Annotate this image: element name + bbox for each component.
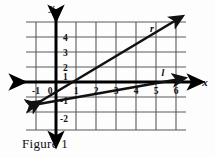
y-tick-label-1: 1 <box>63 72 68 82</box>
x-tick-label--1: -1 <box>32 86 40 96</box>
y-tick-label--1: -1 <box>60 96 68 106</box>
y-tick-label-4: 4 <box>63 33 68 43</box>
x-tick-label-5: 5 <box>154 86 159 96</box>
figure-container: -1 0 1 2 3 4 5 6 4 3 2 1 -1 -2 y x r l F… <box>0 0 215 158</box>
y-axis-label: y <box>48 1 55 13</box>
line-label-r: r <box>150 23 154 34</box>
x-axis-label: x <box>201 76 208 88</box>
x-tick-label-6: 6 <box>174 86 179 96</box>
line-label-l: l <box>162 67 165 78</box>
figure-caption: Figure 1 <box>22 136 68 152</box>
x-tick-label-2: 2 <box>94 86 99 96</box>
x-tick-label-4: 4 <box>134 86 139 96</box>
x-tick-label-1: 1 <box>74 86 79 96</box>
x-tick-label-3: 3 <box>114 86 119 96</box>
x-tick-label-0: 0 <box>48 86 53 96</box>
y-tick-label-3: 3 <box>63 48 68 58</box>
y-tick-label--2: -2 <box>60 114 68 124</box>
coordinate-plane-graph: -1 0 1 2 3 4 5 6 4 3 2 1 -1 -2 y x r l <box>0 0 215 158</box>
